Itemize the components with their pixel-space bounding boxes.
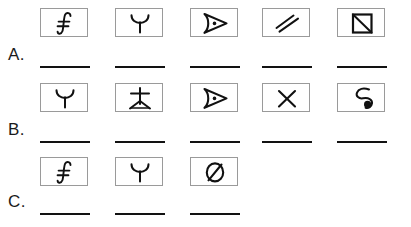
symbol-cell xyxy=(190,8,240,37)
symbol-worksheet: A.B.C. xyxy=(0,0,411,227)
triangle-right-dot-icon xyxy=(190,8,238,37)
symbol-cell xyxy=(337,83,387,112)
row-label-1: A. xyxy=(8,46,25,63)
symbol-cell xyxy=(190,83,240,112)
answer-blank[interactable] xyxy=(262,141,312,143)
answer-blank[interactable] xyxy=(40,141,90,143)
answer-blank[interactable] xyxy=(262,66,312,68)
symbol-cell xyxy=(40,157,90,186)
circle-slash-icon xyxy=(190,157,238,186)
integral-s-icon xyxy=(40,157,88,186)
empty-symbol-slot xyxy=(337,157,385,186)
answer-blank[interactable] xyxy=(115,141,165,143)
integral-s-icon xyxy=(40,8,88,37)
triangle-right-dot-icon xyxy=(190,83,238,112)
symbol-cell xyxy=(40,83,90,112)
row-label-2: B. xyxy=(8,121,25,138)
answer-blank[interactable] xyxy=(115,66,165,68)
x-cross-icon xyxy=(262,83,310,112)
answer-blank[interactable] xyxy=(337,141,387,143)
y-bowl-icon xyxy=(40,83,88,112)
hook-spiral-dot-icon xyxy=(337,83,385,112)
symbol-cell xyxy=(40,8,90,37)
row-label-3: C. xyxy=(8,193,26,210)
empty-symbol-slot xyxy=(262,157,310,186)
symbol-cell xyxy=(262,8,312,37)
answer-blank[interactable] xyxy=(190,141,240,143)
y-bowl-icon xyxy=(115,157,163,186)
y-bowl-icon xyxy=(115,8,163,37)
square-diagonal-icon xyxy=(337,8,385,37)
answer-blank[interactable] xyxy=(190,213,240,215)
symbol-cell xyxy=(115,157,165,186)
symbol-cell xyxy=(262,157,312,186)
symbol-cell xyxy=(337,8,387,37)
double-slash-icon xyxy=(262,8,310,37)
symbol-cell xyxy=(190,157,240,186)
symbol-cell xyxy=(337,157,387,186)
symbol-cell xyxy=(115,83,165,112)
symbol-cell xyxy=(115,8,165,37)
answer-blank[interactable] xyxy=(40,213,90,215)
answer-blank[interactable] xyxy=(337,66,387,68)
answer-blank[interactable] xyxy=(40,66,90,68)
answer-blank[interactable] xyxy=(115,213,165,215)
answer-blank[interactable] xyxy=(190,66,240,68)
cross-splayed-legs-icon xyxy=(115,83,163,112)
symbol-cell xyxy=(262,83,312,112)
